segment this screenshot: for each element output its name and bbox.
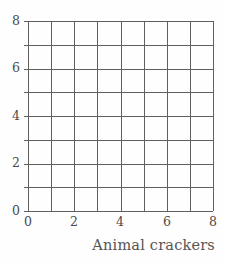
x-tick-label-0: 0 — [16, 216, 40, 229]
chart-canvas: 8 6 4 2 0 0 2 4 6 8 Animal crackers — [0, 0, 226, 264]
x-tick-label-6: 6 — [155, 216, 179, 229]
x-tick-label-4: 4 — [108, 216, 132, 229]
x-tick-label-2: 2 — [62, 216, 86, 229]
y-tick-label-2: 2 — [2, 157, 20, 170]
x-tick-label-8: 8 — [201, 216, 225, 229]
grid-lines — [28, 21, 213, 211]
y-tick-label-6: 6 — [2, 62, 20, 75]
x-axis-title: Animal crackers — [0, 237, 215, 253]
plot-area — [28, 21, 213, 211]
y-tick-label-8: 8 — [2, 15, 20, 28]
y-tick-label-4: 4 — [2, 110, 20, 123]
